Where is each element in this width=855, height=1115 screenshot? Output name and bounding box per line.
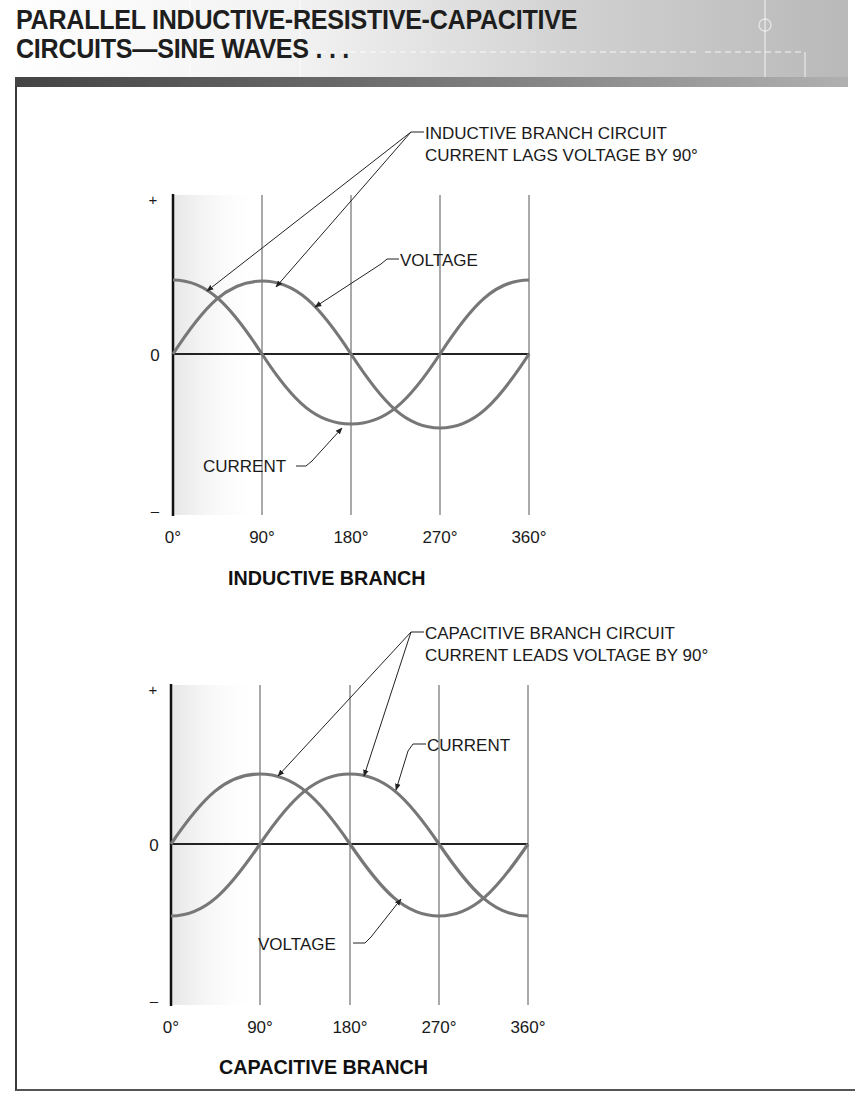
x-tick-270: 270°: [422, 528, 457, 547]
voltage-label: VOLTAGE: [258, 935, 336, 954]
x-tick-360: 360°: [511, 528, 546, 547]
x-tick-0: 0°: [165, 528, 181, 547]
voltage-label: VOLTAGE: [400, 251, 478, 270]
capacitive-chart: + 0 – 0° 90° 180° 270° 360° CAPACITIVE B…: [149, 624, 709, 1037]
voltage-callout: VOLTAGE: [258, 899, 401, 954]
annotation-line-2: CURRENT LAGS VOLTAGE BY 90°: [425, 146, 698, 165]
y-zero-label: 0: [149, 836, 158, 855]
annotation-line-1: INDUCTIVE BRANCH CIRCUIT: [425, 124, 667, 143]
inductive-branch-title: INDUCTIVE BRANCH: [228, 566, 425, 590]
y-plus-label: +: [149, 191, 158, 208]
inductive-chart: + 0 – 0° 90° 180° 270° 360° INDUCTIVE BR…: [149, 124, 698, 547]
y-plus-label: +: [149, 681, 158, 698]
y-minus-label: –: [151, 502, 160, 519]
x-tick-270: 270°: [421, 1018, 456, 1037]
current-label: CURRENT: [203, 457, 286, 476]
current-label: CURRENT: [427, 736, 510, 755]
x-tick-90: 90°: [249, 528, 275, 547]
x-tick-0: 0°: [163, 1018, 179, 1037]
x-tick-90: 90°: [247, 1018, 273, 1037]
annotation-line-1: CAPACITIVE BRANCH CIRCUIT: [425, 624, 675, 643]
y-minus-label: –: [150, 992, 159, 1009]
x-tick-labels: 0° 90° 180° 270° 360°: [163, 1018, 546, 1037]
x-tick-360: 360°: [510, 1018, 545, 1037]
voltage-callout: VOLTAGE: [315, 251, 478, 307]
x-tick-180: 180°: [333, 528, 368, 547]
annotation-line-2: CURRENT LEADS VOLTAGE BY 90°: [425, 646, 708, 665]
y-zero-label: 0: [150, 346, 159, 365]
capacitive-branch-title: CAPACITIVE BRANCH: [219, 1055, 428, 1079]
x-tick-180: 180°: [332, 1018, 367, 1037]
current-callout: CURRENT: [396, 736, 510, 790]
x-tick-labels: 0° 90° 180° 270° 360°: [165, 528, 547, 547]
